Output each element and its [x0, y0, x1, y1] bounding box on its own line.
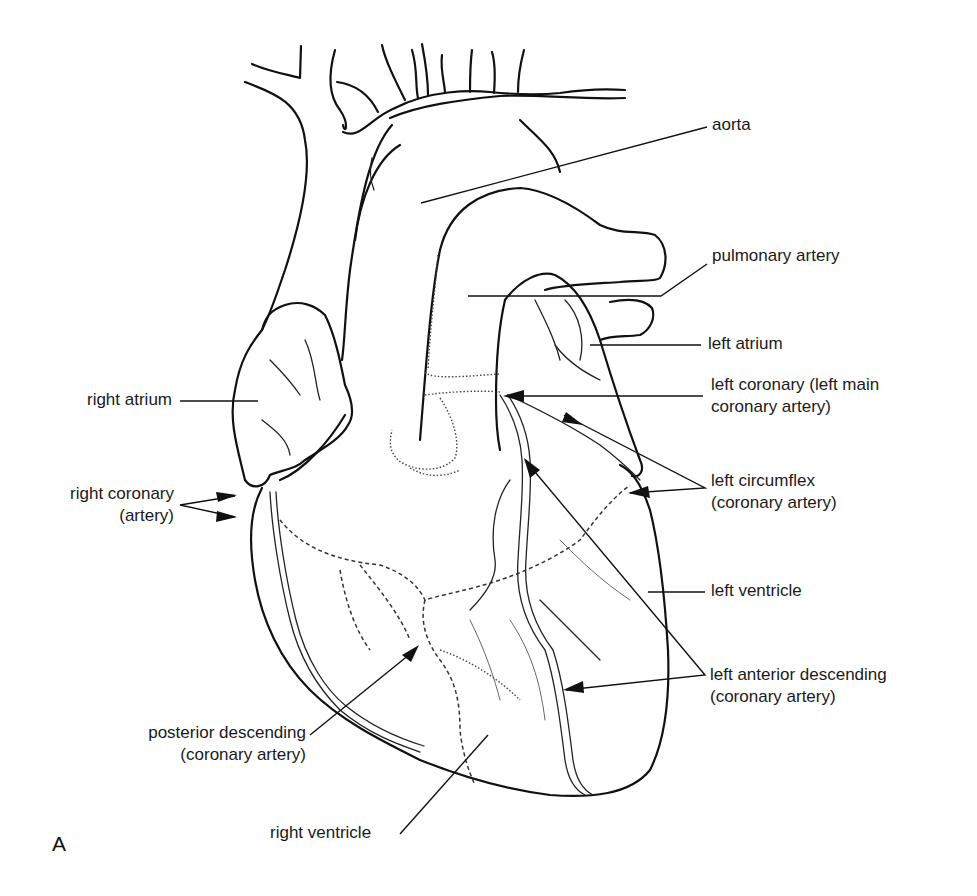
label-posterior-descending-line2: (coronary artery)	[100, 744, 306, 766]
label-left-circumflex-line2: (coronary artery)	[711, 492, 837, 514]
great-vessels	[245, 44, 625, 360]
label-lad-line2: (coronary artery)	[710, 686, 887, 708]
label-right-coronary-line2: (artery)	[40, 505, 174, 527]
label-lad-line1: left anterior descending	[710, 664, 887, 686]
posterior-vessels	[280, 485, 630, 785]
label-right-coronary: right coronary (artery)	[40, 483, 174, 527]
coronary-arteries	[270, 395, 640, 795]
label-left-circumflex-line1: left circumflex	[711, 470, 837, 492]
label-aorta: aorta	[712, 114, 751, 136]
label-left-atrium: left atrium	[708, 333, 783, 355]
label-right-coronary-line1: right coronary	[40, 483, 174, 505]
label-left-coronary-line1: left coronary (left main	[711, 374, 879, 396]
right-atrium-shape	[233, 303, 352, 486]
label-left-circumflex: left circumflex (coronary artery)	[711, 470, 837, 514]
label-posterior-descending-line1: posterior descending	[100, 722, 306, 744]
label-left-coronary-line2: coronary artery)	[711, 396, 879, 418]
pulmonary-trunk	[390, 188, 665, 475]
label-left-ventricle: left ventricle	[711, 580, 802, 602]
label-left-coronary: left coronary (left main coronary artery…	[711, 374, 879, 418]
left-atrium-shape	[496, 274, 653, 477]
label-posterior-descending: posterior descending (coronary artery)	[100, 722, 306, 766]
label-right-atrium: right atrium	[56, 389, 172, 411]
ventricles-outline	[251, 415, 668, 796]
label-pulmonary-artery: pulmonary artery	[712, 245, 840, 267]
label-left-anterior-descending: left anterior descending (coronary arter…	[710, 664, 887, 708]
panel-label: A	[52, 832, 66, 856]
label-right-ventricle: right ventricle	[270, 822, 371, 844]
